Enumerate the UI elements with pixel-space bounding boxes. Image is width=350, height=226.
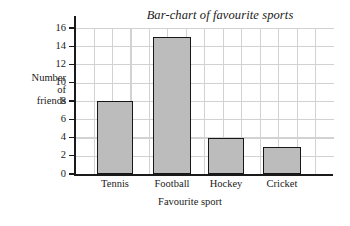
chart-title: Bar-chart of favourite sports (105, 8, 335, 23)
y-axis-tick (69, 119, 75, 120)
y-axis-tick (69, 100, 75, 101)
y-axis-tick-label: 4 (44, 132, 66, 142)
y-axis-tick-label: 6 (44, 114, 66, 124)
y-axis-tick (69, 82, 75, 83)
bar-football (153, 37, 191, 174)
bar-tennis (97, 101, 133, 174)
y-axis-tick (69, 173, 75, 174)
y-axis-tick-label: 12 (44, 59, 66, 69)
y-axis-tick (69, 137, 75, 138)
bar-cricket (263, 147, 301, 174)
y-axis-tick-label: 0 (44, 169, 66, 179)
y-axis-title: Number of friends (2, 72, 66, 107)
x-axis-label-cricket: Cricket (247, 178, 317, 189)
y-axis-title-line-1: Number (2, 72, 66, 84)
bar-chart: Bar-chart of favourite sports 0246810121… (0, 0, 350, 226)
x-axis-line (74, 174, 333, 176)
y-axis-tick (69, 27, 75, 28)
y-axis-tick-label: 14 (44, 41, 66, 51)
y-axis-title-line-3: friends (2, 95, 66, 107)
y-axis-tick (69, 46, 75, 47)
x-axis-title: Favourite sport (75, 196, 305, 207)
bar-hockey (208, 138, 244, 175)
y-axis-line (74, 16, 76, 175)
y-axis-tick-label: 16 (44, 23, 66, 33)
y-axis-tick (69, 64, 75, 65)
y-axis-tick (69, 155, 75, 156)
y-axis-tick-label: 2 (44, 150, 66, 160)
y-axis-title-line-2: of (2, 84, 66, 96)
